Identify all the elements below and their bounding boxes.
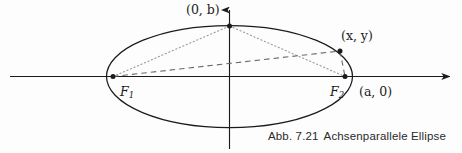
ellipse-figure: (0, b) (x, y) F1 F2 (a, 0) Abb. 7.21Achs… — [0, 0, 462, 153]
label-focus-left-base: F — [120, 84, 129, 99]
label-focus-right: F2 — [330, 86, 344, 100]
segment-top-vertex-to-focus2 — [230, 26, 346, 77]
label-focus-left: F1 — [120, 86, 134, 100]
label-top-vertex: (0, b) — [186, 4, 220, 17]
figure-caption-text: Achsenparallele Ellipse — [324, 130, 446, 142]
point-on-ellipse — [338, 49, 343, 54]
point-focus-right — [343, 74, 348, 79]
figure-caption-number: Abb. 7.21 — [268, 130, 319, 142]
label-focus-left-sub: 1 — [129, 90, 134, 100]
point-top-vertex — [227, 24, 232, 29]
segment-focus1-to-point — [113, 51, 340, 77]
point-focus-left — [111, 74, 116, 79]
label-focus-right-base: F — [330, 84, 339, 99]
label-focus-right-sub: 2 — [339, 90, 344, 100]
figure-caption: Abb. 7.21Achsenparallele Ellipse — [268, 130, 446, 142]
segment-point-to-focus2 — [340, 51, 345, 77]
segment-focus1-to-top-vertex — [113, 26, 230, 77]
label-right-vertex: (a, 0) — [359, 86, 392, 99]
label-point-xy: (x, y) — [341, 30, 373, 43]
